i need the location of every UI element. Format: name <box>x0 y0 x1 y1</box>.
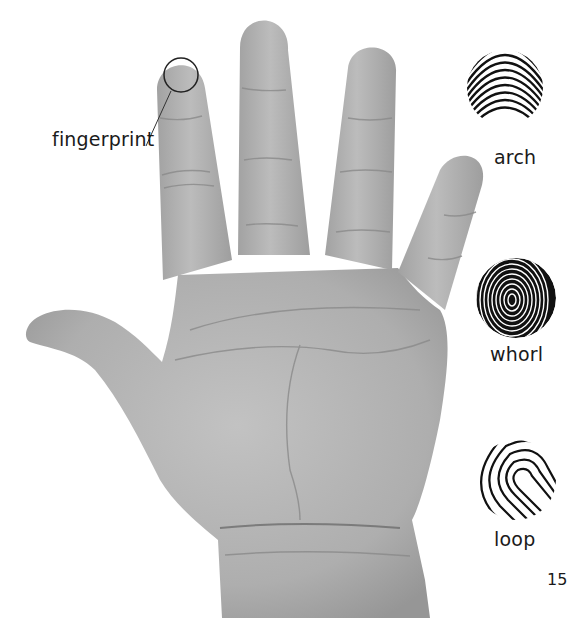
ring-finger <box>325 47 396 270</box>
arch-label: arch <box>494 146 536 168</box>
middle-finger <box>238 20 310 255</box>
whorl-label: whorl <box>490 343 543 365</box>
whorl-fingerprint-icon <box>476 254 556 346</box>
palm-shape <box>26 268 448 618</box>
hand <box>26 20 483 618</box>
diagram-canvas: fingerprint arch whorl loop 15 <box>0 0 583 618</box>
loop-label: loop <box>494 528 535 550</box>
fingerprint-label: fingerprint <box>52 128 154 150</box>
arch-fingerprint-icon <box>462 33 548 140</box>
hand-illustration <box>0 0 583 618</box>
page-number: 15 <box>547 570 567 589</box>
